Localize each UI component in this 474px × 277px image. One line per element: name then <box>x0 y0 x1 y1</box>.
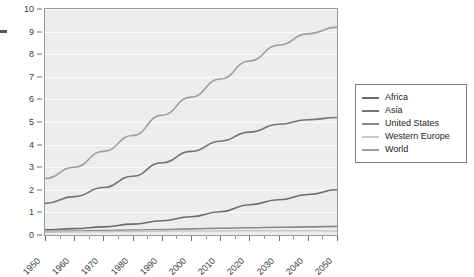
x-tick-mark <box>249 236 250 241</box>
x-tick-label: 2000 <box>167 256 188 277</box>
legend-color-swatch-africa <box>362 97 379 99</box>
chart-legend: Africa Asia United States Western Europe… <box>355 84 467 163</box>
y-tick-mark <box>37 76 42 77</box>
x-tick-label: 2040 <box>284 256 305 277</box>
x-minor-tick-mark <box>264 236 265 239</box>
legend-label-united-states: United States <box>385 117 439 130</box>
x-tick-label: 2030 <box>255 256 276 277</box>
series-line-world <box>45 27 337 178</box>
y-tick-mark <box>37 235 42 236</box>
y-tick-mark <box>37 31 42 32</box>
legend-color-swatch-western-europe <box>362 136 379 138</box>
x-tick-label: 1950 <box>21 256 42 277</box>
legend-item[interactable]: United States <box>362 117 459 130</box>
x-tick-label: 2010 <box>196 256 217 277</box>
x-tick-mark <box>162 236 163 241</box>
y-tick-mark <box>37 144 42 145</box>
x-minor-tick-mark <box>89 236 90 239</box>
y-tick-label: 10 <box>24 4 34 14</box>
y-tick-mark <box>37 189 42 190</box>
x-minor-tick-mark <box>322 236 323 239</box>
x-tick-label: 2050 <box>313 256 334 277</box>
x-minor-tick-mark <box>60 236 61 239</box>
legend-label-africa: Africa <box>385 91 408 104</box>
x-tick-mark <box>133 236 134 241</box>
x-minor-tick-mark <box>176 236 177 239</box>
y-tick-label: 6 <box>29 94 34 104</box>
y-tick-label: 0 <box>29 230 34 240</box>
legend-item[interactable]: Africa <box>362 91 459 104</box>
y-tick-label: 8 <box>29 49 34 59</box>
y-tick-mark <box>37 54 42 55</box>
legend-color-swatch-asia <box>362 110 379 112</box>
x-minor-tick-mark <box>147 236 148 239</box>
x-minor-tick-mark <box>118 236 119 239</box>
legend-label-asia: Asia <box>385 104 403 117</box>
y-tick-label: 1 <box>29 207 34 217</box>
legend-item[interactable]: Western Europe <box>362 130 459 143</box>
y-tick-mark <box>37 99 42 100</box>
y-tick-mark <box>37 167 42 168</box>
legend-label-western-europe: Western Europe <box>385 130 450 143</box>
x-tick-mark <box>191 236 192 241</box>
y-axis: 012345678910 <box>0 0 44 244</box>
x-tick-label: 1960 <box>50 256 71 277</box>
y-tick-mark <box>37 212 42 213</box>
chart-screenshot: 012345678910 195019601970198019902000201… <box>0 0 474 277</box>
x-tick-mark <box>279 236 280 241</box>
y-tick-label: 7 <box>29 72 34 82</box>
x-axis: 1950196019701980199020002010202020302040… <box>44 236 338 277</box>
legend-color-swatch-world <box>362 149 379 151</box>
x-tick-label: 1970 <box>79 256 100 277</box>
x-minor-tick-mark <box>206 236 207 239</box>
legend-color-swatch-united-states <box>362 123 379 125</box>
x-minor-tick-mark <box>293 236 294 239</box>
x-tick-mark <box>74 236 75 241</box>
y-tick-label: 5 <box>29 117 34 127</box>
x-tick-label: 1990 <box>138 256 159 277</box>
y-tick-label: 2 <box>29 185 34 195</box>
series-line-africa <box>45 190 337 230</box>
y-tick-label: 4 <box>29 140 34 150</box>
x-tick-label: 1980 <box>109 256 130 277</box>
y-tick-mark <box>37 122 42 123</box>
y-tick-label: 3 <box>29 162 34 172</box>
x-tick-mark <box>308 236 309 241</box>
x-tick-label: 2020 <box>225 256 246 277</box>
legend-item[interactable]: World <box>362 143 459 156</box>
legend-label-world: World <box>385 143 408 156</box>
y-tick-label: 9 <box>29 27 34 37</box>
x-minor-tick-mark <box>235 236 236 239</box>
series-lines <box>44 8 338 236</box>
plot-area <box>44 8 338 236</box>
x-tick-mark <box>103 236 104 241</box>
legend-item[interactable]: Asia <box>362 104 459 117</box>
x-tick-mark <box>337 236 338 241</box>
x-tick-mark <box>220 236 221 241</box>
y-tick-mark <box>37 9 42 10</box>
x-tick-mark <box>45 236 46 241</box>
